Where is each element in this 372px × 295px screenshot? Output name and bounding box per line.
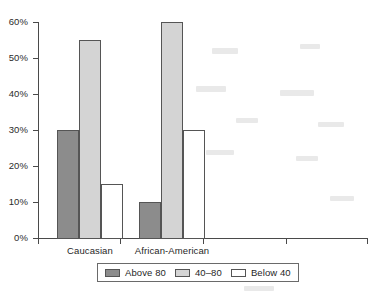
legend-swatch-icon-40-80 [175,269,190,277]
x-axis-label-african-american: African-American [124,245,220,257]
y-tick [33,130,38,131]
chart-legend: Above 80 40–80 Below 40 [97,263,299,282]
y-axis-label-10: 10% [9,197,28,207]
legend-item-above-80: Above 80 [105,268,166,278]
y-axis-label-20: 20% [9,161,28,171]
scan-artifact [280,90,314,96]
scan-artifact [244,286,274,291]
y-tick [33,166,38,167]
legend-item-below-40: Below 40 [231,268,291,278]
scan-artifact [296,156,318,161]
y-axis-label-0: 0% [14,233,28,243]
scan-artifact [236,118,258,123]
bar-african-american-below-40 [183,130,205,239]
legend-label-below-40: Below 40 [251,268,291,278]
bar-caucasian-above-80 [57,130,79,239]
scan-artifact [196,86,226,92]
scan-artifact [330,196,354,201]
x-tick [367,239,368,244]
scan-artifact [318,122,344,127]
x-axis-label-caucasian: Caucasian [47,245,133,257]
y-axis-label-50: 50% [9,53,28,63]
legend-label-40-80: 40–80 [195,268,222,278]
scan-artifact [212,48,238,54]
scan-artifact [300,44,320,49]
scan-artifact [206,150,234,155]
bar-african-american-40-80 [161,22,183,239]
legend-label-above-80: Above 80 [125,268,166,278]
y-tick [33,22,38,23]
y-axis-label-60: 60% [9,17,28,27]
legend-swatch-icon-above-80 [105,269,120,277]
y-axis-label-30: 30% [9,125,28,135]
y-tick [33,202,38,203]
bar-african-american-above-80 [139,202,161,239]
bar-chart: 60% 50% 40% 30% 20% 10% 0% Caucasian Afr… [0,0,372,295]
y-axis-line [38,22,39,239]
x-tick [203,239,204,244]
x-tick [120,239,121,244]
x-tick [286,239,287,244]
y-axis-label-40: 40% [9,89,28,99]
bar-caucasian-below-40 [101,184,123,239]
legend-swatch-icon-below-40 [231,269,246,277]
bar-caucasian-40-80 [79,40,101,239]
legend-item-40-80: 40–80 [175,268,222,278]
x-tick [38,239,39,244]
y-tick [33,94,38,95]
y-tick [33,58,38,59]
